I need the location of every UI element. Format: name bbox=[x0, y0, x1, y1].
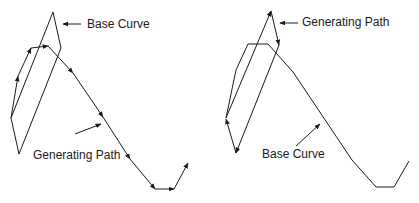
left-generating-path-label: Generating Path bbox=[33, 148, 120, 162]
right-generating-path-label: Generating Path bbox=[302, 15, 389, 29]
left-base-curve bbox=[11, 12, 61, 154]
left-generating-path-pointer-arrow bbox=[75, 124, 101, 134]
left-generating-path bbox=[11, 46, 188, 189]
right-base-curve-pointer-arrow bbox=[296, 124, 320, 146]
right-base-curve-label: Base Curve bbox=[262, 147, 325, 161]
left-base-curve-label: Base Curve bbox=[87, 17, 150, 31]
sweep-diagram bbox=[0, 0, 419, 203]
right-base-curve bbox=[226, 44, 409, 187]
